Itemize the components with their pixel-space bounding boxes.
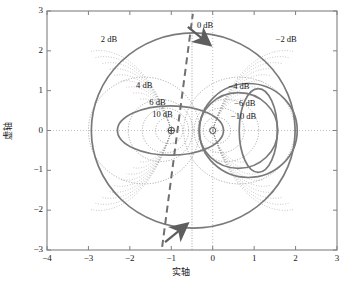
nyquist-figure: −4−3−2−101233210−1−2−30 dB2 dB−2 dB4 dB−… [0, 0, 352, 284]
x-tick-label: −4 [40, 253, 54, 263]
contour-label: −10 dB [231, 111, 256, 121]
contour-label: 6 dB [149, 97, 165, 107]
x-tick-label: 0 [206, 253, 220, 263]
y-tick-label: 2 [27, 45, 43, 55]
contour-label: 10 dB [152, 109, 173, 119]
contour-label: 4 dB [136, 80, 152, 90]
x-tick-label: −1 [164, 253, 178, 263]
x-tick-label: −3 [81, 253, 95, 263]
y-tick-label: −2 [27, 204, 43, 214]
x-tick-label: 3 [330, 253, 344, 263]
contour-label: −2 dB [276, 34, 297, 44]
x-tick-label: 1 [247, 253, 261, 263]
contour-label: −4 dB [228, 81, 249, 91]
y-tick-label: 1 [27, 85, 43, 95]
y-tick-label: 3 [27, 5, 43, 15]
y-tick-label: −3 [27, 244, 43, 254]
x-axis-title: 实轴 [172, 265, 190, 278]
y-tick-label: −1 [27, 164, 43, 174]
x-tick-label: −2 [123, 253, 137, 263]
y-tick-label: 0 [27, 125, 43, 135]
contour-label: 0 dB [197, 20, 213, 30]
y-axis-title: 虚轴 [1, 122, 14, 140]
contour-label: 2 dB [101, 34, 117, 44]
x-tick-label: 2 [289, 253, 303, 263]
plot-canvas [0, 0, 352, 284]
contour-label: −6 dB [234, 98, 255, 108]
